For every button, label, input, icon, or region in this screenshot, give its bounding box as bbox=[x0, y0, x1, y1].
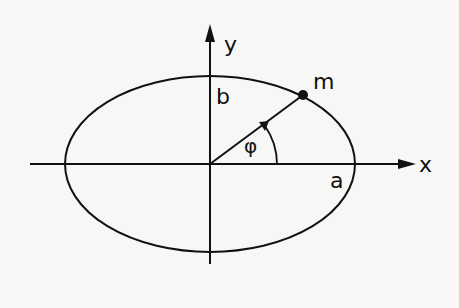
y-axis-arrowhead bbox=[205, 24, 215, 42]
ellipse-diagram-svg: y x b a m φ bbox=[0, 0, 459, 308]
m-label: m bbox=[313, 69, 334, 94]
x-axis-label: x bbox=[419, 152, 432, 177]
angle-arc bbox=[265, 126, 277, 164]
y-axis-label: y bbox=[224, 32, 237, 57]
a-label: a bbox=[330, 168, 343, 193]
ellipse-figure: y x b a m φ bbox=[0, 0, 459, 308]
phi-label: φ bbox=[244, 134, 257, 158]
x-axis-arrowhead bbox=[398, 159, 416, 169]
b-label: b bbox=[216, 84, 230, 109]
point-m-dot bbox=[298, 90, 308, 100]
